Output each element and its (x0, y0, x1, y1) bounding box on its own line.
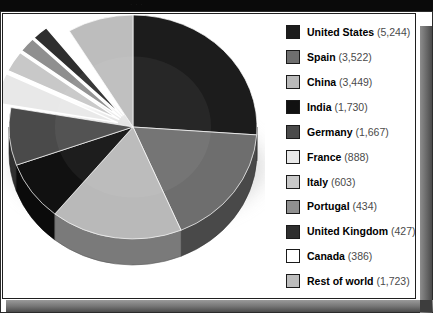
legend-label: Canada (386) (307, 251, 372, 262)
legend-label: China (3,449) (307, 77, 372, 88)
legend-item[interactable]: France (888) (286, 144, 414, 169)
legend-swatch (286, 125, 300, 139)
legend-item[interactable]: Germany (1,667) (286, 120, 414, 145)
legend-category-name: United States (307, 26, 374, 38)
legend-category-name: China (307, 76, 336, 88)
legend-label: India (1,730) (307, 102, 368, 113)
legend-swatch (286, 100, 300, 114)
legend-item[interactable]: Spain (3,522) (286, 45, 414, 70)
legend-label: Portugal (434) (307, 201, 377, 212)
pie-chart-3d (3, 14, 265, 298)
legend-value: (1,730) (332, 101, 368, 113)
legend-label: France (888) (307, 152, 369, 163)
legend-swatch (286, 50, 300, 64)
legend-label: United Kingdom (427) (307, 226, 415, 237)
legend-swatch (286, 175, 300, 189)
legend-swatch (286, 274, 300, 288)
legend-value: (1,723) (374, 275, 410, 287)
legend-swatch (286, 75, 300, 89)
legend-swatch (286, 150, 300, 164)
frame-bevel-corner (420, 300, 432, 312)
legend-category-name: Italy (307, 176, 328, 188)
frame-bevel-bottom (6, 300, 433, 312)
legend-swatch (286, 200, 300, 214)
legend-label: United States (5,244) (307, 27, 410, 38)
legend-value: (5,244) (374, 26, 410, 38)
legend-label: Germany (1,667) (307, 127, 389, 138)
legend-label: Spain (3,522) (307, 52, 372, 63)
legend-swatch (286, 25, 300, 39)
header-ghost-text: · · · (130, 1, 143, 8)
legend-label: Italy (603) (307, 177, 355, 188)
chart-legend: United States (5,244)Spain (3,522)China … (286, 20, 414, 294)
legend-category-name: Spain (307, 51, 336, 63)
legend-swatch (286, 225, 300, 239)
legend-item[interactable]: United Kingdom (427) (286, 219, 414, 244)
frame-bevel-right (420, 26, 432, 313)
legend-value: (386) (345, 250, 372, 262)
legend-item[interactable]: India (1,730) (286, 95, 414, 120)
legend-value: (427) (388, 225, 415, 237)
legend-item[interactable]: China (3,449) (286, 70, 414, 95)
chart-plot-area: United States (5,244)Spain (3,522)China … (3, 14, 415, 298)
legend-value: (603) (328, 176, 355, 188)
legend-value: (1,667) (353, 126, 389, 138)
legend-category-name: Canada (307, 250, 345, 262)
legend-category-name: Rest of world (307, 275, 374, 287)
legend-value: (888) (341, 151, 368, 163)
legend-swatch (286, 249, 300, 263)
legend-category-name: France (307, 151, 341, 163)
window-header-strip: · · · (0, 0, 433, 11)
legend-category-name: Germany (307, 126, 353, 138)
legend-category-name: India (307, 101, 332, 113)
legend-value: (3,449) (336, 76, 372, 88)
legend-item[interactable]: Italy (603) (286, 169, 414, 194)
legend-category-name: United Kingdom (307, 225, 388, 237)
legend-label: Rest of world (1,723) (307, 276, 410, 287)
legend-category-name: Portugal (307, 200, 350, 212)
legend-item[interactable]: United States (5,244) (286, 20, 414, 45)
legend-item[interactable]: Canada (386) (286, 244, 414, 269)
legend-value: (434) (350, 200, 377, 212)
screenshot-root: · · · United States (5,244)Spain (3,522)… (0, 0, 433, 313)
legend-item[interactable]: Portugal (434) (286, 194, 414, 219)
legend-item[interactable]: Rest of world (1,723) (286, 269, 414, 294)
legend-value: (3,522) (336, 51, 372, 63)
pie-chart-svg (3, 14, 265, 298)
